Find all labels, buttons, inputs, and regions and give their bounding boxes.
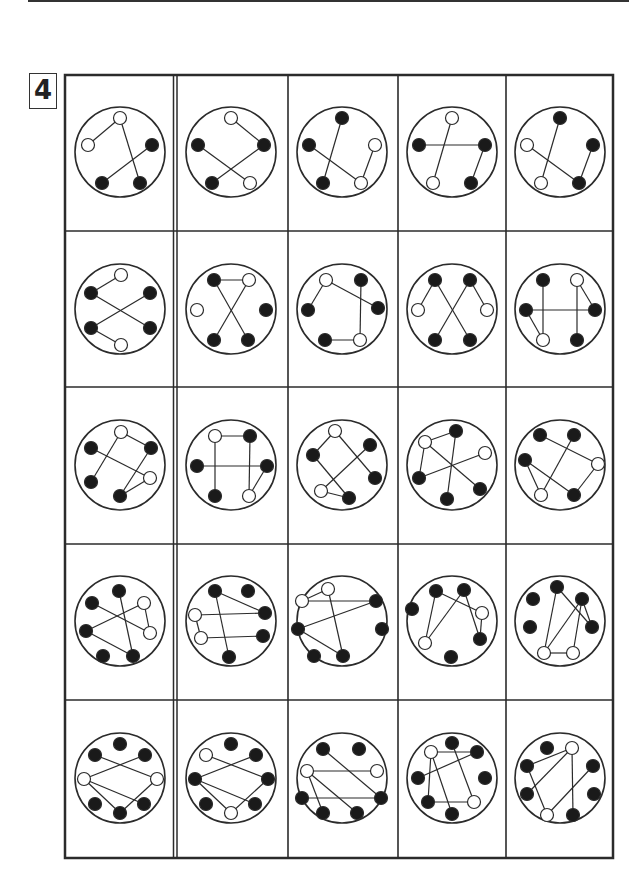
empty-dot-icon — [355, 177, 368, 190]
puzzle-cell[interactable] — [186, 107, 276, 197]
puzzle-cell[interactable] — [75, 576, 165, 666]
filled-dot-icon — [242, 334, 255, 347]
filled-dot-icon — [519, 454, 532, 467]
empty-dot-icon — [243, 274, 256, 287]
empty-dot-icon — [144, 627, 157, 640]
filled-dot-icon — [244, 430, 257, 443]
puzzle-cell[interactable] — [515, 107, 605, 197]
empty-dot-icon — [225, 807, 238, 820]
filled-dot-icon — [537, 274, 550, 287]
puzzle-cell[interactable] — [75, 264, 165, 354]
empty-dot-icon — [371, 765, 384, 778]
empty-dot-icon — [535, 489, 548, 502]
empty-dot-icon — [481, 304, 494, 317]
empty-dot-icon — [115, 269, 128, 282]
filled-dot-icon — [139, 749, 152, 762]
puzzle-cell[interactable] — [186, 576, 276, 666]
empty-dot-icon — [476, 607, 489, 620]
filled-dot-icon — [370, 595, 383, 608]
puzzle-cell[interactable] — [406, 576, 498, 666]
empty-dot-icon — [296, 595, 309, 608]
filled-dot-icon — [97, 650, 110, 663]
empty-dot-icon — [369, 139, 382, 152]
filled-dot-icon — [573, 177, 586, 190]
filled-dot-icon — [450, 425, 463, 438]
empty-dot-icon — [209, 430, 222, 443]
puzzle-cell[interactable] — [186, 420, 276, 510]
filled-dot-icon — [80, 625, 93, 638]
filled-dot-icon — [534, 429, 547, 442]
filled-dot-icon — [567, 809, 580, 822]
empty-dot-icon — [412, 304, 425, 317]
filled-dot-icon — [521, 788, 534, 801]
puzzle-cell[interactable] — [292, 576, 389, 666]
filled-dot-icon — [568, 429, 581, 442]
filled-dot-icon — [308, 650, 321, 663]
puzzle-cell[interactable] — [297, 420, 387, 510]
filled-dot-icon — [223, 651, 236, 664]
filled-dot-icon — [192, 139, 205, 152]
filled-dot-icon — [208, 334, 221, 347]
filled-dot-icon — [144, 287, 157, 300]
filled-dot-icon — [524, 621, 537, 634]
puzzle-cell[interactable] — [515, 733, 605, 823]
empty-dot-icon — [225, 112, 238, 125]
puzzle-cell[interactable] — [407, 264, 497, 354]
puzzle-cell[interactable] — [186, 733, 276, 823]
empty-dot-icon — [115, 339, 128, 352]
filled-dot-icon — [458, 584, 471, 597]
empty-dot-icon — [468, 796, 481, 809]
filled-dot-icon — [413, 472, 426, 485]
puzzle-cell[interactable] — [186, 264, 276, 354]
puzzle-grid — [0, 0, 640, 887]
empty-dot-icon — [354, 334, 367, 347]
filled-dot-icon — [589, 304, 602, 317]
empty-dot-icon — [567, 647, 580, 660]
filled-dot-icon — [259, 607, 272, 620]
filled-dot-icon — [307, 449, 320, 462]
filled-dot-icon — [250, 749, 263, 762]
empty-dot-icon — [419, 436, 432, 449]
filled-dot-icon — [146, 139, 159, 152]
filled-dot-icon — [114, 490, 127, 503]
filled-dot-icon — [372, 302, 385, 315]
puzzle-cell[interactable] — [515, 264, 605, 354]
empty-dot-icon — [114, 112, 127, 125]
puzzle-cell[interactable] — [297, 264, 387, 354]
puzzle-cell[interactable] — [407, 420, 497, 510]
puzzle-cell[interactable] — [515, 420, 605, 510]
empty-dot-icon — [138, 597, 151, 610]
filled-dot-icon — [317, 177, 330, 190]
puzzle-cell[interactable] — [75, 107, 165, 197]
empty-dot-icon — [566, 742, 579, 755]
puzzle-cell[interactable] — [515, 576, 605, 666]
filled-dot-icon — [406, 603, 419, 616]
empty-dot-icon — [151, 773, 164, 786]
filled-dot-icon — [576, 593, 589, 606]
filled-dot-icon — [474, 483, 487, 496]
empty-dot-icon — [479, 447, 492, 460]
filled-dot-icon — [479, 139, 492, 152]
filled-dot-icon — [85, 442, 98, 455]
filled-dot-icon — [588, 788, 601, 801]
filled-dot-icon — [445, 651, 458, 664]
puzzle-cell[interactable] — [297, 107, 387, 197]
filled-dot-icon — [260, 304, 273, 317]
filled-dot-icon — [85, 476, 98, 489]
filled-dot-icon — [261, 460, 274, 473]
filled-dot-icon — [191, 460, 204, 473]
filled-dot-icon — [85, 322, 98, 335]
filled-dot-icon — [430, 585, 443, 598]
puzzle-cell[interactable] — [75, 420, 165, 510]
filled-dot-icon — [209, 490, 222, 503]
puzzle-cell[interactable] — [75, 733, 165, 823]
filled-dot-icon — [376, 623, 389, 636]
filled-dot-icon — [422, 796, 435, 809]
puzzle-cell[interactable] — [407, 733, 497, 823]
empty-dot-icon — [315, 485, 328, 498]
empty-dot-icon — [82, 139, 95, 152]
filled-dot-icon — [200, 798, 213, 811]
filled-dot-icon — [520, 304, 533, 317]
puzzle-cell[interactable] — [296, 733, 388, 823]
puzzle-cell[interactable] — [407, 107, 497, 197]
